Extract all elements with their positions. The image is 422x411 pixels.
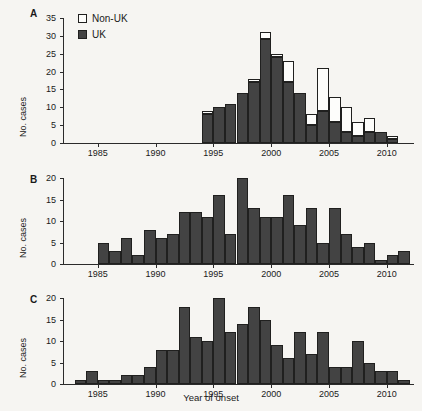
bar-C-1983 xyxy=(75,380,87,384)
x-tick-label-B-1985: 1985 xyxy=(83,270,113,279)
x-tick-A-1990 xyxy=(156,144,157,147)
y-tick-label-C-10: 10 xyxy=(38,337,56,346)
bar-C-1992 xyxy=(179,307,191,384)
y-tick-C-10 xyxy=(60,341,63,342)
panel-label-B: B xyxy=(30,174,37,185)
bar-C-2001 xyxy=(283,358,295,384)
x-tick-A-1985 xyxy=(98,144,99,147)
y-axis-title-C: No. cases xyxy=(18,338,28,378)
panel-label-A: A xyxy=(30,8,37,19)
bar-B-1996 xyxy=(225,234,237,264)
x-tick-label-B-2005: 2005 xyxy=(314,270,344,279)
y-tick-A-25 xyxy=(60,54,63,55)
y-tick-A-5 xyxy=(60,125,63,126)
x-tick-label-B-1990: 1990 xyxy=(141,270,171,279)
x-axis-title: Year of onset xyxy=(0,392,422,403)
bar-C-1999 xyxy=(260,320,272,385)
bar-B-1997 xyxy=(237,178,249,264)
y-tick-A-15 xyxy=(60,89,63,90)
y-tick-label-B-0: 0 xyxy=(38,260,56,269)
bar-C-1984 xyxy=(86,371,98,384)
x-tick-B-1985 xyxy=(98,265,99,268)
y-tick-label-B-10: 10 xyxy=(38,217,56,226)
x-tick-label-A-1995: 1995 xyxy=(198,149,228,158)
bar-B-2010 xyxy=(387,255,399,264)
bar-uk-2007 xyxy=(352,136,364,143)
bar-B-2001 xyxy=(283,195,295,264)
y-tick-label-A-20: 20 xyxy=(38,68,56,77)
bar-C-2009 xyxy=(375,371,387,384)
bar-C-1985 xyxy=(98,380,110,384)
bar-C-1991 xyxy=(167,350,179,384)
bar-B-2000 xyxy=(271,217,283,264)
bar-uk-2009 xyxy=(375,132,387,143)
bar-B-2002 xyxy=(294,225,306,264)
y-tick-C-15 xyxy=(60,320,63,321)
bar-B-1990 xyxy=(156,238,168,264)
x-tick-C-1985 xyxy=(98,385,99,388)
y-axis-line-C xyxy=(63,298,64,385)
bar-B-2005 xyxy=(329,208,341,264)
y-tick-A-30 xyxy=(60,36,63,37)
y-tick-C-5 xyxy=(60,363,63,364)
y-tick-label-C-5: 5 xyxy=(38,359,56,368)
bar-B-2006 xyxy=(341,234,353,264)
bar-C-1986 xyxy=(109,380,121,384)
y-tick-B-20 xyxy=(60,178,63,179)
bar-B-2004 xyxy=(317,243,329,265)
bar-C-1996 xyxy=(225,332,237,384)
bar-B-2007 xyxy=(352,247,364,264)
y-tick-A-20 xyxy=(60,72,63,73)
x-tick-A-2005 xyxy=(329,144,330,147)
y-tick-A-35 xyxy=(60,18,63,19)
y-axis-line-B xyxy=(63,178,64,265)
bar-C-2010 xyxy=(387,371,399,384)
bar-C-2005 xyxy=(329,367,341,384)
bar-uk-2001 xyxy=(283,82,295,143)
bar-nonuk-2007 xyxy=(352,122,364,136)
bar-B-1995 xyxy=(213,195,225,264)
bar-nonuk-2008 xyxy=(364,118,376,132)
x-tick-B-2005 xyxy=(329,265,330,268)
bar-C-2004 xyxy=(317,332,329,384)
x-tick-label-B-2000: 2000 xyxy=(256,270,286,279)
x-axis-line-B xyxy=(63,264,414,265)
bar-B-1986 xyxy=(109,251,121,264)
bar-uk-2000 xyxy=(271,57,283,143)
bar-C-1987 xyxy=(121,375,133,384)
bar-B-1994 xyxy=(202,217,214,264)
bar-C-2007 xyxy=(352,341,364,384)
bar-C-2008 xyxy=(364,363,376,385)
bar-nonuk-2005 xyxy=(329,97,341,122)
x-tick-B-1995 xyxy=(213,265,214,268)
bar-uk-1999 xyxy=(260,39,272,143)
bar-B-1999 xyxy=(260,217,272,264)
x-axis-line-C xyxy=(63,384,414,385)
bar-B-1993 xyxy=(190,212,202,264)
bar-B-2008 xyxy=(364,243,376,265)
bar-B-1992 xyxy=(179,212,191,264)
y-tick-label-C-0: 0 xyxy=(38,380,56,389)
panel-label-C: C xyxy=(30,294,37,305)
x-tick-label-A-2000: 2000 xyxy=(256,149,286,158)
x-tick-C-1995 xyxy=(213,385,214,388)
bar-C-1994 xyxy=(202,341,214,384)
bar-C-2003 xyxy=(306,354,318,384)
y-tick-B-10 xyxy=(60,221,63,222)
x-tick-C-1990 xyxy=(156,385,157,388)
x-tick-A-1995 xyxy=(213,144,214,147)
bar-B-2011 xyxy=(398,251,410,264)
bar-nonuk-2001 xyxy=(283,61,295,82)
x-tick-B-1990 xyxy=(156,265,157,268)
x-tick-label-A-1985: 1985 xyxy=(83,149,113,158)
bar-B-2009 xyxy=(375,260,387,264)
bar-C-1990 xyxy=(156,350,168,384)
y-tick-C-0 xyxy=(60,384,63,385)
bar-C-1998 xyxy=(248,307,260,384)
bar-C-1988 xyxy=(132,375,144,384)
bar-uk-1996 xyxy=(225,104,237,143)
bar-B-1989 xyxy=(144,230,156,264)
y-tick-label-B-20: 20 xyxy=(38,174,56,183)
x-tick-C-2005 xyxy=(329,385,330,388)
bar-C-2011 xyxy=(398,380,410,384)
